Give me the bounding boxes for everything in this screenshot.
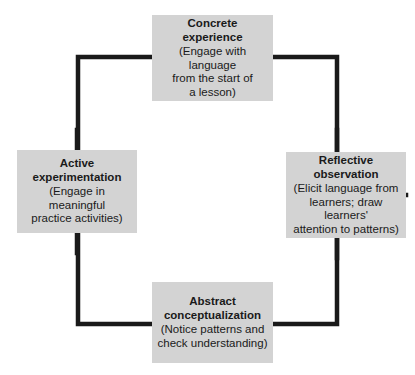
node-abstract-conceptualization: Abstract conceptualization (Notice patte… (152, 282, 273, 363)
node-concrete-experience-description: (Engage with language from the start of … (156, 45, 269, 99)
node-active-experimentation: Active experimentation (Engage in meanin… (17, 150, 137, 233)
node-abstract-conceptualization-title: Abstract conceptualization (164, 295, 261, 322)
node-concrete-experience: Concrete experience (Engage with languag… (152, 15, 273, 101)
node-abstract-conceptualization-description: (Notice patterns and check understanding… (158, 323, 268, 350)
experiential-learning-cycle-diagram: Concrete experience (Engage with languag… (0, 0, 415, 375)
node-active-experimentation-title: Active experimentation (33, 157, 122, 184)
node-active-experimentation-description: (Engage in meaningful practice activitie… (21, 185, 133, 226)
node-reflective-observation-title: Reflective observation (313, 154, 378, 181)
node-reflective-observation-description: (Elicit language from learners; draw lea… (290, 182, 402, 236)
node-reflective-observation: Reflective observation (Elicit language … (286, 152, 406, 238)
node-concrete-experience-title: Concrete experience (182, 17, 242, 44)
